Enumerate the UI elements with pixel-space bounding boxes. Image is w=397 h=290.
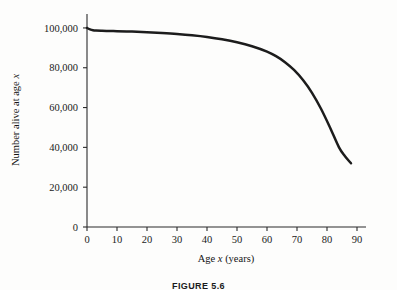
y-tick-label: 80,000	[49, 62, 78, 73]
figure-caption: FIGURE 5.6	[0, 281, 397, 290]
x-tick-label: 20	[142, 234, 153, 245]
survival-curve-line	[87, 28, 351, 163]
x-tick-label: 30	[172, 234, 183, 245]
y-tick-label: 40,000	[49, 142, 78, 153]
x-tick-label: 90	[352, 234, 363, 245]
y-tick-label: 100,000	[44, 23, 78, 34]
y-axis: 020,00040,00060,00080,000100,000	[44, 14, 87, 233]
x-axis: 0102030405060708090	[84, 227, 366, 245]
y-axis-title: Number alive at age x	[10, 74, 21, 166]
x-tick-label: 0	[84, 234, 89, 245]
x-axis-title: Age x (years)	[198, 253, 255, 265]
x-tick-label: 70	[292, 234, 303, 245]
y-tick-label: 60,000	[49, 102, 78, 113]
x-tick-label: 80	[322, 234, 333, 245]
y-tick-label: 20,000	[49, 182, 78, 193]
x-tick-label: 10	[112, 234, 123, 245]
figure-container: 020,00040,00060,00080,000100,000 0102030…	[0, 0, 397, 290]
y-axis-ticks	[83, 28, 87, 227]
x-axis-ticks	[87, 227, 357, 231]
x-tick-label: 40	[202, 234, 213, 245]
survival-curve-chart: 020,00040,00060,00080,000100,000 0102030…	[0, 0, 397, 272]
y-axis-tick-labels: 020,00040,00060,00080,000100,000	[44, 23, 78, 233]
x-axis-tick-labels: 0102030405060708090	[84, 234, 362, 245]
x-tick-label: 50	[232, 234, 243, 245]
x-tick-label: 60	[262, 234, 273, 245]
y-tick-label: 0	[73, 222, 78, 233]
